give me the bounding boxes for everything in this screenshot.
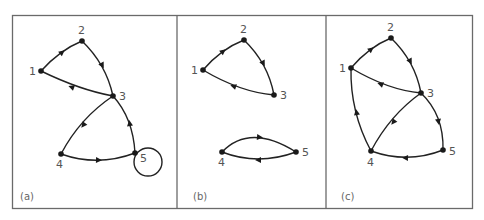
panel-b: 1 2 3 4 5 (b): [191, 23, 309, 202]
node-c-5: [440, 147, 446, 153]
node-label-a-1: 1: [29, 65, 36, 78]
edge-a-3-1: [41, 71, 113, 96]
node-label-b-2: 2: [240, 23, 247, 36]
node-label-a-2: 2: [78, 24, 85, 37]
node-c-4: [368, 148, 374, 154]
arrow-c-4-1: [353, 109, 360, 116]
node-label-c-1: 1: [339, 62, 346, 75]
node-a-2: [79, 38, 85, 44]
directed-graphs-figure: 1 2 3 4 5 (a) 1 2 3 4 5 (b): [0, 0, 484, 220]
figure-frame: [13, 16, 473, 209]
node-label-b-3: 3: [280, 89, 287, 102]
arrow-a-4-5: [96, 157, 102, 163]
node-label-a-5: 5: [140, 152, 147, 165]
edge-a-2-3: [82, 41, 113, 96]
arrow-b-4-5: [257, 134, 264, 141]
panel-c: 1 2 3 4 5 (c): [339, 21, 456, 202]
node-c-1: [348, 65, 354, 71]
node-label-c-2: 2: [387, 21, 394, 34]
panel-a: 1 2 3 4 5 (a): [20, 24, 162, 202]
panel-label-b: (b): [193, 191, 207, 202]
node-label-c-4: 4: [367, 156, 374, 169]
node-label-a-3: 3: [119, 90, 126, 103]
node-b-3: [271, 92, 277, 98]
node-label-b-1: 1: [191, 64, 198, 77]
edge-a-1-2: [41, 41, 82, 71]
edge-b-4-5: [222, 138, 296, 153]
edge-c-3-1: [351, 68, 421, 93]
arrow-c-5-4: [402, 155, 408, 161]
node-label-a-4: 4: [56, 158, 63, 171]
node-label-c-3: 3: [427, 87, 434, 100]
edge-b-1-2: [203, 40, 244, 70]
edge-c-4-1: [351, 68, 371, 151]
edge-b-5-4: [222, 152, 296, 159]
self-loop-a-5: [134, 148, 162, 176]
node-a-1: [38, 68, 44, 74]
node-a-5: [132, 150, 138, 156]
node-label-c-5: 5: [449, 145, 456, 158]
panel-label-c: (c): [341, 191, 354, 202]
node-a-3: [110, 93, 116, 99]
node-b-2: [241, 37, 247, 43]
node-a-4: [58, 151, 64, 157]
edge-b-3-1: [203, 70, 274, 95]
edge-c-2-3: [391, 38, 421, 93]
node-b-1: [200, 67, 206, 73]
panel-label-a: (a): [20, 191, 34, 202]
node-b-5: [293, 149, 299, 155]
node-label-b-5: 5: [302, 146, 309, 159]
node-c-3: [418, 90, 424, 96]
arrow-b-5-4: [255, 157, 261, 163]
edge-b-2-3: [244, 40, 274, 95]
node-label-b-4: 4: [218, 156, 225, 169]
node-c-2: [388, 35, 394, 41]
arrow-a-5-3: [126, 120, 133, 127]
node-b-4: [219, 149, 225, 155]
arrow-c-3-5: [435, 118, 442, 125]
